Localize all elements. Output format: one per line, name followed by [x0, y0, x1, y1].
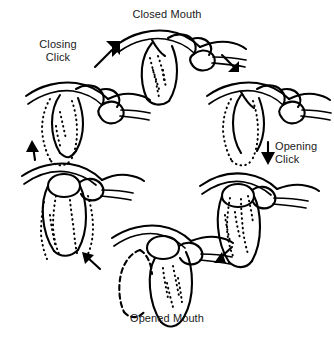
tmj-cycle-diagram: Closed Mouth Opened Mouth Closing Click …	[0, 0, 334, 341]
panel-closing-click	[26, 83, 150, 166]
label-closed-mouth: Closed Mouth	[0, 8, 334, 21]
label-closing-click: Closing Click	[22, 38, 94, 64]
panel-opening-click	[200, 174, 319, 268]
label-opening-click: Opening Click	[275, 140, 334, 166]
arrow-closing-to-closed	[94, 41, 120, 68]
panel-early-closing	[22, 164, 144, 260]
panel-closed-mouth	[118, 31, 246, 105]
arrow-early-opening-to-opening-click	[261, 142, 275, 165]
arrow-early-closing-to-closing-click	[26, 140, 39, 160]
arrow-opening-click-to-opened	[214, 247, 232, 263]
label-opened-mouth: Opened Mouth	[0, 312, 334, 325]
arrow-opened-to-early-closing	[82, 252, 100, 269]
arrow-closed-to-early-opening	[222, 55, 239, 72]
